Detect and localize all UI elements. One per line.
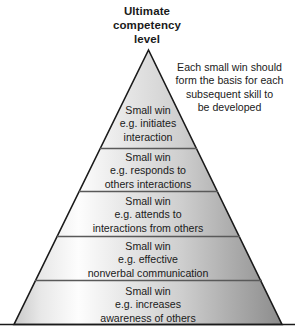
level-4-line-3: nonverbal communication: [18, 267, 278, 280]
level-2-line-2: e.g. responds to: [43, 164, 253, 177]
level-2-line-1: Small win: [43, 151, 253, 164]
annotation-line-3: subsequent skill to: [166, 88, 293, 101]
pyramid-level-4-label: Small win e.g. effective nonverbal commu…: [18, 240, 278, 280]
annotation-line-1: Each small win should: [166, 61, 293, 74]
diagram-title-line-2: competency: [77, 18, 217, 32]
pyramid-level-2-label: Small win e.g. responds to others intera…: [43, 151, 253, 191]
level-5-line-1: Small win: [14, 285, 282, 298]
pyramid-level-3-label: Small win e.g. attends to interactions f…: [28, 195, 268, 235]
level-3-line-1: Small win: [28, 195, 268, 208]
level-4-line-1: Small win: [18, 240, 278, 253]
level-5-line-3: awareness of others: [14, 312, 282, 325]
level-1-line-1: Small win: [58, 104, 238, 117]
competency-pyramid-diagram: Ultimate competency level Each small win…: [0, 0, 295, 332]
annotation-line-2: form the basis for each: [166, 74, 293, 87]
pyramid-level-5-label: Small win e.g. increases awareness of ot…: [14, 285, 282, 325]
level-1-line-2: e.g. initiates: [58, 117, 238, 130]
pyramid-level-1-label: Small win e.g. initiates interaction: [58, 104, 238, 144]
level-2-line-3: others interactions: [43, 178, 253, 191]
level-1-line-3: interaction: [58, 131, 238, 144]
level-4-line-2: e.g. effective: [18, 253, 278, 266]
diagram-title-line-3: level: [77, 32, 217, 46]
diagram-title-line-1: Ultimate: [77, 4, 217, 18]
level-3-line-2: e.g. attends to: [28, 208, 268, 221]
level-3-line-3: interactions from others: [28, 222, 268, 235]
level-5-line-2: e.g. increases: [14, 298, 282, 311]
diagram-title: Ultimate competency level: [77, 4, 217, 47]
